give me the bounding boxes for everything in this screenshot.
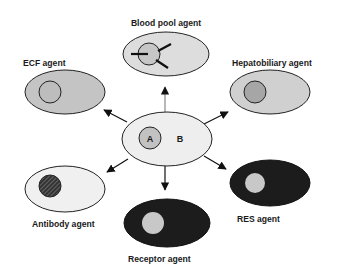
- hatched-core-icon: [39, 175, 61, 197]
- label-receptor: Receptor agent: [128, 254, 191, 264]
- node-res: RES agent: [230, 160, 310, 224]
- node-antibody: Antibody agent: [25, 166, 105, 229]
- label-blood-pool: Blood pool agent: [131, 18, 201, 28]
- label-hepatobiliary: Hepatobiliary agent: [232, 58, 312, 68]
- label-res: RES agent: [237, 214, 280, 224]
- node-hepatobiliary: Hepatobiliary agent: [230, 58, 312, 114]
- arrow-to-res: [204, 156, 226, 169]
- label-antibody: Antibody agent: [32, 219, 95, 229]
- node-ecf: ECF agent: [23, 58, 105, 114]
- node-blood-pool: Blood pool agent: [123, 18, 209, 76]
- center-node: A B: [122, 112, 212, 166]
- label-a: A: [147, 134, 154, 144]
- arrow-to-hepatobiliary: [204, 112, 228, 124]
- diagram-canvas: A B Blood pool agent ECF agent Hepatobil…: [0, 0, 354, 265]
- arrow-to-ecf: [104, 110, 127, 122]
- label-b: B: [177, 134, 184, 144]
- node-receptor: Receptor agent: [124, 199, 210, 264]
- label-ecf: ECF agent: [23, 58, 66, 68]
- arrow-to-antibody: [107, 159, 128, 172]
